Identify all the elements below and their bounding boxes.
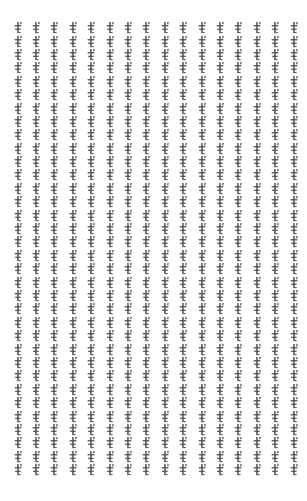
dagger-glyph: [49, 369, 60, 382]
glyph-cell: [248, 208, 266, 221]
glyph-cell: [46, 235, 64, 248]
dagger-glyph: [123, 356, 134, 369]
dagger-glyph: [49, 115, 60, 128]
dagger-glyph: [141, 35, 152, 48]
glyph-cell: [27, 356, 45, 369]
glyph-cell: [248, 369, 266, 382]
dagger-glyph: [270, 142, 281, 155]
glyph-cell: [156, 329, 174, 342]
glyph-cell: [27, 329, 45, 342]
dagger-glyph: [233, 195, 244, 208]
dagger-glyph: [31, 182, 42, 195]
glyph-cell: [175, 249, 193, 262]
dagger-glyph: [141, 410, 152, 423]
glyph-cell: [230, 195, 248, 208]
glyph-cell: [64, 34, 82, 47]
glyph-cell: [285, 88, 303, 101]
glyph-cell: [175, 128, 193, 141]
glyph-cell: [266, 369, 284, 382]
dagger-glyph: [86, 383, 97, 396]
glyph-cell: [83, 195, 101, 208]
dagger-glyph: [13, 142, 24, 155]
glyph-cell: [101, 34, 119, 47]
dagger-glyph: [49, 209, 60, 222]
dagger-glyph: [233, 48, 244, 61]
dagger-glyph: [86, 102, 97, 115]
glyph-cell: [138, 128, 156, 141]
glyph-cell: [9, 75, 27, 88]
glyph-cell: [211, 235, 229, 248]
dagger-glyph: [289, 235, 300, 248]
glyph-cell: [175, 275, 193, 288]
glyph-cell: [248, 48, 266, 61]
glyph-cell: [193, 409, 211, 422]
dagger-glyph: [289, 21, 300, 34]
glyph-cell: [64, 369, 82, 382]
glyph-cell: [193, 329, 211, 342]
glyph-cell: [266, 142, 284, 155]
glyph-cell: [46, 316, 64, 329]
dagger-glyph: [123, 128, 134, 141]
dagger-glyph: [160, 155, 171, 168]
glyph-cell: [193, 275, 211, 288]
glyph-cell: [266, 289, 284, 302]
glyph-cell: [175, 182, 193, 195]
glyph-cell: [156, 409, 174, 422]
glyph-cell: [138, 195, 156, 208]
glyph-cell: [27, 396, 45, 409]
dagger-glyph: [13, 383, 24, 396]
glyph-cell: [266, 450, 284, 463]
glyph-cell: [138, 235, 156, 248]
dagger-glyph: [197, 155, 208, 168]
dagger-glyph: [233, 102, 244, 115]
dagger-glyph: [86, 182, 97, 195]
dagger-glyph: [252, 61, 263, 74]
dagger-glyph: [68, 410, 79, 423]
glyph-cell: [266, 396, 284, 409]
dagger-glyph: [49, 396, 60, 409]
glyph-cell: [101, 101, 119, 114]
dagger-glyph: [68, 195, 79, 208]
dagger-glyph: [13, 115, 24, 128]
glyph-cell: [27, 21, 45, 34]
dagger-glyph: [215, 182, 226, 195]
glyph-cell: [230, 75, 248, 88]
glyph-cell: [285, 356, 303, 369]
dagger-glyph: [49, 249, 60, 262]
dagger-glyph: [13, 128, 24, 141]
dagger-glyph: [49, 35, 60, 48]
dagger-glyph: [160, 289, 171, 302]
dagger-glyph: [105, 222, 116, 235]
dagger-glyph: [13, 289, 24, 302]
dagger-glyph: [31, 276, 42, 289]
dagger-glyph: [289, 195, 300, 208]
dagger-glyph: [86, 222, 97, 235]
glyph-cell: [266, 182, 284, 195]
dagger-glyph: [233, 450, 244, 463]
dagger-glyph: [49, 21, 60, 34]
glyph-cell: [46, 369, 64, 382]
dagger-glyph: [31, 35, 42, 48]
glyph-cell: [138, 168, 156, 181]
glyph-cell: [248, 450, 266, 463]
dagger-glyph: [141, 75, 152, 88]
dagger-glyph: [141, 88, 152, 101]
glyph-cell: [248, 423, 266, 436]
glyph-cell: [101, 316, 119, 329]
dagger-glyph: [178, 168, 189, 181]
dagger-glyph: [105, 302, 116, 315]
dagger-glyph: [141, 276, 152, 289]
glyph-cell: [156, 289, 174, 302]
dagger-glyph: [160, 168, 171, 181]
glyph-cell: [230, 450, 248, 463]
glyph-cell: [64, 289, 82, 302]
glyph-cell: [27, 423, 45, 436]
glyph-cell: [46, 48, 64, 61]
glyph-cell: [193, 34, 211, 47]
glyph-cell: [193, 88, 211, 101]
glyph-cell: [27, 383, 45, 396]
dagger-glyph: [160, 423, 171, 436]
glyph-cell: [119, 396, 137, 409]
glyph-cell: [64, 195, 82, 208]
dagger-glyph: [31, 423, 42, 436]
